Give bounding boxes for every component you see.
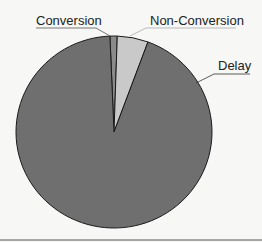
- non-conversion-leader-line: [130, 28, 236, 36]
- pie-slices: [16, 36, 212, 228]
- delay-leader-line: [196, 74, 250, 83]
- conversion-leader-line: [36, 28, 110, 36]
- conversion-label: Conversion: [36, 13, 102, 28]
- delay-label: Delay: [218, 58, 252, 73]
- non-conversion-label: Non-Conversion: [150, 13, 244, 28]
- pie-chart: Conversion Non-Conversion Delay: [0, 0, 262, 242]
